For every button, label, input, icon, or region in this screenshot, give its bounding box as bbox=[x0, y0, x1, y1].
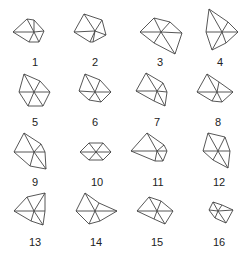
polygon-spoke bbox=[157, 145, 164, 151]
polygon-label: 6 bbox=[92, 116, 98, 128]
polygon-spoke bbox=[89, 143, 96, 152]
polygon-label: 1 bbox=[32, 56, 38, 68]
polygon-spoke bbox=[34, 152, 46, 169]
polygon-spoke bbox=[29, 32, 34, 42]
polygon-label: 3 bbox=[157, 56, 163, 68]
polygon-spoke bbox=[157, 151, 163, 161]
polygon-spoke bbox=[207, 74, 217, 92]
polygon-outline bbox=[14, 133, 46, 169]
polygon-spoke bbox=[96, 152, 103, 160]
triangulated-polygon: 8 bbox=[197, 74, 233, 128]
triangulated-polygon: 1 bbox=[13, 19, 44, 68]
triangulated-polygon: 6 bbox=[79, 74, 111, 128]
polygon-spoke bbox=[217, 92, 222, 102]
polygon-spoke bbox=[89, 152, 96, 160]
polygon-outline bbox=[203, 133, 230, 168]
polygon-spoke bbox=[95, 20, 102, 31]
polygon-spoke bbox=[218, 137, 225, 151]
triangulated-polygon: 2 bbox=[74, 14, 106, 68]
polygon-spoke bbox=[30, 152, 34, 166]
polygon-label: 5 bbox=[32, 116, 38, 128]
polygon-spoke bbox=[34, 31, 44, 32]
triangulated-polygon: 5 bbox=[19, 74, 50, 128]
polygon-spoke bbox=[96, 143, 103, 152]
triangulated-polygon: 7 bbox=[136, 73, 167, 128]
polygon-spoke bbox=[95, 92, 101, 102]
triangulated-polygon: 3 bbox=[140, 18, 182, 68]
triangulated-polygon: 11 bbox=[131, 133, 167, 188]
polygon-outline bbox=[140, 18, 182, 54]
polygon-outline bbox=[74, 14, 106, 42]
polygon-spoke bbox=[218, 205, 222, 211]
polygon-spoke bbox=[154, 32, 161, 43]
polygon-spoke bbox=[28, 92, 34, 106]
polygon-outline bbox=[19, 74, 50, 106]
polygon-outline bbox=[79, 74, 111, 102]
polygon-spoke bbox=[34, 81, 40, 92]
polygon-label: 8 bbox=[215, 116, 221, 128]
polygon-spoke bbox=[155, 151, 157, 161]
polygon-spoke bbox=[154, 211, 157, 219]
polygon-spoke bbox=[154, 91, 157, 101]
polygon-spoke bbox=[34, 193, 45, 211]
triangulated-polygon: 4 bbox=[206, 9, 238, 68]
polygon-label: 2 bbox=[92, 56, 98, 68]
polygon-spoke bbox=[154, 18, 161, 32]
polygon-spoke bbox=[146, 73, 157, 91]
polygon-spoke bbox=[157, 83, 163, 91]
polygon-spoke bbox=[85, 193, 95, 211]
polygon-label: 10 bbox=[91, 176, 103, 188]
polygon-spoke bbox=[222, 22, 228, 32]
polygon-label: 11 bbox=[152, 176, 163, 188]
polygon-spoke bbox=[89, 211, 95, 224]
polygon-label: 15 bbox=[151, 236, 163, 248]
triangulated-polygon: 12 bbox=[203, 133, 230, 188]
polygon-spoke bbox=[147, 133, 157, 151]
polygon-spoke bbox=[209, 210, 218, 211]
triangulated-polygon: 9 bbox=[14, 133, 46, 188]
polygon-spoke bbox=[209, 9, 222, 32]
polygon-outline bbox=[206, 9, 238, 50]
polygon-spoke bbox=[34, 92, 43, 106]
polygon-spoke bbox=[84, 14, 95, 31]
polygon-outline bbox=[209, 202, 233, 223]
polygon-spoke bbox=[213, 151, 218, 160]
polygon-label: 7 bbox=[154, 116, 160, 128]
triangulated-polygon: 15 bbox=[137, 197, 173, 248]
polygon-spoke bbox=[27, 19, 34, 32]
polygon-label: 16 bbox=[213, 236, 225, 248]
polygon-spoke bbox=[79, 91, 95, 92]
polygon-spoke bbox=[34, 144, 41, 152]
polygon-spoke bbox=[74, 31, 95, 32]
polygon-label: 12 bbox=[213, 176, 225, 188]
triangulated-polygon: 14 bbox=[76, 193, 117, 248]
polygon-spoke bbox=[218, 210, 233, 211]
polygon-spoke bbox=[27, 197, 34, 211]
polygon-spoke bbox=[95, 31, 106, 35]
polygon-spoke bbox=[161, 22, 170, 32]
polygon-spoke bbox=[89, 92, 95, 100]
polygon-spoke bbox=[217, 82, 219, 92]
triangulated-polygon: 16 bbox=[209, 202, 233, 248]
polygon-outline bbox=[137, 197, 173, 224]
polygon-spoke bbox=[222, 32, 226, 43]
polygon-spoke bbox=[161, 32, 182, 33]
polygon-spoke bbox=[215, 211, 218, 218]
polygon-label: 9 bbox=[32, 176, 38, 188]
triangulated-polygon: 13 bbox=[14, 193, 45, 248]
polygon-spoke bbox=[212, 92, 217, 101]
polygon-spoke bbox=[95, 203, 99, 211]
polygon-spoke bbox=[34, 32, 39, 42]
polygon-label: 4 bbox=[217, 56, 223, 68]
polygon-label: 14 bbox=[90, 236, 102, 248]
polygon-spoke bbox=[85, 74, 95, 92]
polygon-spoke bbox=[95, 80, 100, 92]
polygon-spoke bbox=[95, 211, 100, 221]
polygon-label: 13 bbox=[29, 236, 41, 248]
polygon-spoke bbox=[157, 91, 167, 92]
polygon-spoke bbox=[31, 211, 34, 221]
polygon-spoke bbox=[157, 201, 161, 211]
polygon-grid-figure: 12345678910111213141516 bbox=[0, 0, 245, 255]
triangulated-polygon: 10 bbox=[80, 143, 111, 188]
polygon-spoke bbox=[208, 133, 218, 151]
